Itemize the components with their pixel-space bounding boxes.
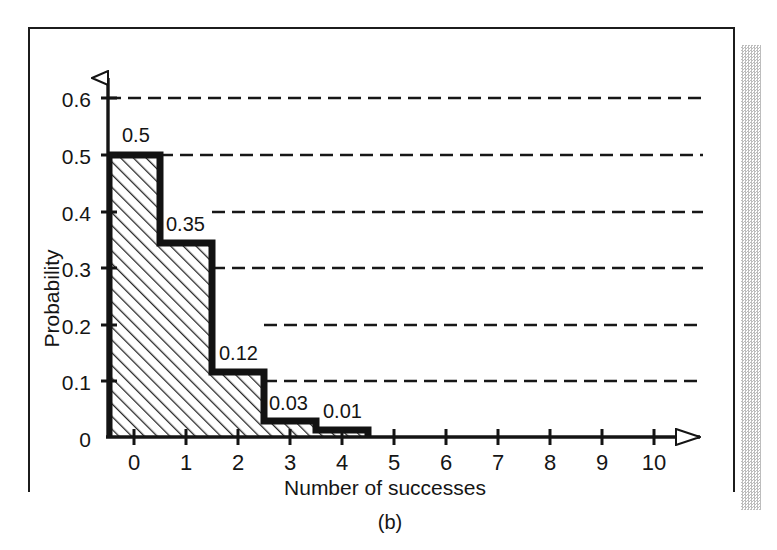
bar-fill-1 [160,243,212,437]
x-axis-title: Number of successes [265,477,505,498]
y-tick-label-0.5: 0.5 [33,146,91,167]
x-tick-label-9: 9 [582,452,622,474]
x-tick-label-8: 8 [530,452,570,474]
y-axis-title: Probability [41,198,62,348]
figure-root: 0 0.1 0.2 0.3 0.4 0.5 0.6 0 1 2 3 4 5 6 … [0,0,777,550]
bar-value-label-1: 0.35 [165,214,206,234]
x-tick-label-5: 5 [374,452,414,474]
x-tick-label-4: 4 [322,452,362,474]
x-tick-label-0: 0 [114,452,154,474]
x-tick-label-3: 3 [270,452,310,474]
x-tick-label-1: 1 [166,452,206,474]
x-tick-label-2: 2 [218,452,258,474]
y-tick-label-0.6: 0.6 [33,89,91,110]
bar-value-label-3: 0.03 [268,393,309,413]
bar-value-label-2: 0.12 [218,343,259,363]
bar-fill-0 [108,155,160,437]
bars-fill [108,155,368,437]
x-tick-label-6: 6 [426,452,466,474]
y-tick-label-0: 0 [46,429,91,450]
bar-value-label-4: 0.01 [322,401,363,421]
y-tick-label-0.1: 0.1 [33,372,91,393]
bar-fill-2 [212,372,264,437]
x-tick-label-10: 10 [630,452,678,474]
figure-caption: (b) [320,512,460,532]
bar-value-label-0: 0.5 [121,125,151,145]
x-tick-label-7: 7 [478,452,518,474]
